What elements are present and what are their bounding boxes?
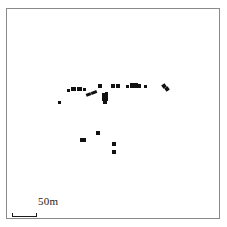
site-feature — [111, 84, 115, 88]
site-feature — [138, 84, 141, 88]
site-feature — [96, 131, 100, 135]
site-feature — [130, 83, 134, 88]
site-feature — [126, 85, 129, 88]
feature-group-south-cluster — [80, 131, 116, 154]
site-feature — [86, 92, 92, 97]
site-features-layer — [7, 9, 221, 220]
site-feature — [80, 138, 86, 142]
site-feature — [116, 84, 120, 88]
plot-area — [7, 9, 219, 218]
feature-group-east-cluster — [126, 83, 147, 88]
site-feature — [112, 150, 116, 154]
site-plan-figure: 50m — [0, 0, 227, 227]
feature-group-far-east-outlier — [161, 83, 170, 92]
site-feature — [58, 101, 61, 104]
site-feature — [77, 87, 82, 91]
site-feature — [91, 90, 98, 95]
site-feature — [98, 84, 102, 88]
site-feature — [105, 92, 108, 99]
site-feature — [134, 83, 138, 88]
feature-group-central-cluster — [98, 84, 108, 104]
feature-group-west-outlier — [58, 101, 61, 104]
site-feature — [83, 88, 86, 91]
scale-bar-graphic — [12, 208, 52, 218]
site-feature — [67, 89, 70, 92]
scale-bar: 50m — [12, 196, 82, 220]
site-feature — [112, 142, 116, 146]
map-border — [6, 8, 220, 219]
feature-group-west-cluster — [67, 87, 97, 97]
site-feature — [103, 100, 107, 104]
scale-bar-label: 50m — [38, 195, 58, 207]
site-feature — [144, 85, 147, 88]
feature-group-east-central-pair — [111, 84, 120, 88]
site-feature — [71, 87, 76, 91]
